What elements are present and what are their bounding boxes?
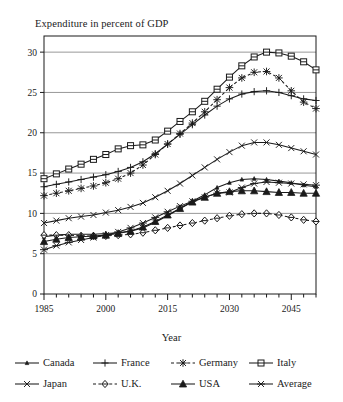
data-point-open-diamond <box>214 215 220 222</box>
data-point-open-square <box>264 49 270 55</box>
legend-label: Canada <box>43 357 75 368</box>
x-tick-label: 2045 <box>282 304 301 314</box>
legend-item-france[interactable]: France <box>92 352 170 373</box>
data-point-open-square <box>276 50 282 56</box>
legend-item-japan[interactable]: Japan <box>14 373 92 394</box>
data-point-asterisk <box>287 87 295 95</box>
data-point-open-diamond <box>189 219 195 226</box>
x-tick-label: 2015 <box>158 304 177 314</box>
legend-marker-star-x-icon <box>248 377 274 391</box>
y-tick-label: 30 <box>28 48 38 58</box>
data-point-asterisk <box>90 182 98 190</box>
y-tick-label: 10 <box>28 209 38 219</box>
data-point-open-square <box>313 67 319 73</box>
data-point-x-cross <box>202 164 208 170</box>
data-point-asterisk <box>300 98 308 106</box>
legend-item-uk[interactable]: U.K. <box>92 373 170 394</box>
data-point-open-square <box>78 161 84 167</box>
x-axis-label: Year <box>0 332 343 343</box>
legend-item-germany[interactable]: Germany <box>170 352 248 373</box>
y-tick-label: 0 <box>32 289 37 299</box>
legend-label: Average <box>277 378 312 389</box>
data-point-asterisk <box>65 187 73 195</box>
data-point-x-cross <box>140 200 146 206</box>
x-tick-label: 2030 <box>220 304 239 314</box>
data-point-open-diamond <box>239 211 245 218</box>
data-point-open-square <box>251 54 257 60</box>
legend-marker-plus-icon <box>92 356 118 370</box>
data-point-open-diamond <box>300 216 306 223</box>
data-point-asterisk <box>238 74 246 82</box>
data-point-asterisk <box>40 192 48 200</box>
data-point-plus <box>53 181 60 188</box>
data-point-asterisk <box>275 74 283 82</box>
data-point-open-square <box>128 143 134 149</box>
data-point-plus <box>226 95 233 102</box>
data-point-asterisk <box>250 68 258 76</box>
data-point-small-triangle <box>240 177 244 181</box>
legend-label: Italy <box>277 357 296 368</box>
data-point-open-square <box>103 152 109 158</box>
legend-marker-small-triangle-icon <box>14 356 40 370</box>
data-point-small-triangle <box>252 177 256 181</box>
data-point-open-diamond <box>263 210 269 217</box>
data-point-asterisk <box>176 130 184 138</box>
legend-item-canada[interactable]: Canada <box>14 352 92 373</box>
legend-label: USA <box>199 378 220 389</box>
data-point-open-square <box>239 63 245 69</box>
series-line <box>44 91 316 187</box>
data-point-plus <box>40 183 47 190</box>
data-point-open-square <box>177 118 183 124</box>
data-point-asterisk <box>139 161 147 169</box>
data-point-small-triangle <box>25 360 29 364</box>
data-point-x-cross <box>177 181 183 187</box>
data-point-asterisk <box>53 189 61 197</box>
data-point-asterisk <box>312 105 320 113</box>
data-point-plus <box>115 168 122 175</box>
data-point-star-x <box>250 181 258 187</box>
legend-label: Japan <box>43 378 67 389</box>
data-point-asterisk <box>201 108 209 116</box>
data-point-open-diamond <box>202 217 208 224</box>
data-point-x-cross <box>214 156 220 162</box>
data-point-plus <box>90 173 97 180</box>
legend-item-usa[interactable]: USA <box>170 373 248 394</box>
data-point-plus <box>312 97 319 104</box>
data-point-open-square <box>41 176 47 182</box>
data-point-plus <box>213 103 220 110</box>
data-point-star-x <box>257 381 265 387</box>
data-point-asterisk <box>179 359 187 367</box>
data-point-x-cross <box>152 194 158 200</box>
plot-frame <box>44 36 316 294</box>
data-point-plus <box>263 87 270 94</box>
chart-figure: Expenditure in percent of GDP 0510152025… <box>0 0 343 402</box>
data-point-asterisk <box>102 179 110 187</box>
legend-marker-filled-triangle-icon <box>170 377 196 391</box>
data-point-asterisk <box>114 175 122 183</box>
data-point-asterisk <box>213 96 221 104</box>
y-tick-label: 25 <box>28 88 38 98</box>
data-point-open-square <box>165 128 171 134</box>
y-tick-label: 20 <box>28 128 38 138</box>
y-tick-label: 15 <box>28 168 38 178</box>
legend-marker-open-diamond-icon <box>92 377 118 391</box>
data-point-plus <box>65 178 72 185</box>
data-point-open-square <box>301 59 307 65</box>
data-point-plus <box>251 88 258 95</box>
series-italy <box>41 49 319 182</box>
data-point-x-cross <box>165 188 171 194</box>
legend-item-average[interactable]: Average <box>248 373 326 394</box>
data-point-asterisk <box>189 119 197 127</box>
data-point-open-square <box>66 166 72 172</box>
data-point-open-diamond <box>313 218 319 225</box>
data-point-open-diamond <box>102 380 108 387</box>
data-point-plus <box>238 90 245 97</box>
x-tick-label: 2000 <box>96 304 115 314</box>
data-point-asterisk <box>226 84 234 92</box>
legend-item-italy[interactable]: Italy <box>248 352 326 373</box>
x-tick-label: 1985 <box>35 304 54 314</box>
series-france <box>40 87 319 190</box>
chart-legend: CanadaFranceGermanyItalyJapanU.K.USAAver… <box>14 352 329 394</box>
data-point-star-x <box>52 243 60 249</box>
data-point-open-diamond <box>152 227 158 234</box>
